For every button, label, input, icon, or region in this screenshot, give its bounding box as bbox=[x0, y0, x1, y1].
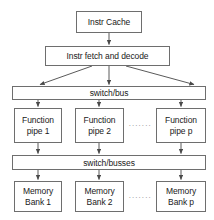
node-function-pipe-1-line2: pipe 1 bbox=[27, 126, 50, 137]
node-instr-cache: Instr Cache bbox=[76, 11, 142, 33]
node-memory-bank-1-line2: Bank 1 bbox=[25, 197, 51, 208]
node-function-pipe-p-line2: pipe p bbox=[170, 126, 193, 137]
node-function-pipe-p-line1: Function bbox=[165, 115, 197, 126]
node-instr-fetch-and-decode-label: Instr fetch and decode bbox=[67, 51, 149, 62]
ellipsis-function-pipes: ······· bbox=[126, 122, 154, 130]
node-instr-fetch-and-decode: Instr fetch and decode bbox=[45, 46, 170, 66]
node-memory-bank-1: Memory Bank 1 bbox=[14, 181, 62, 212]
node-memory-bank-1-line1: Memory bbox=[23, 186, 53, 197]
node-switch-bus: switch/bus bbox=[12, 86, 206, 100]
node-switch-busses: switch/busses bbox=[12, 155, 206, 170]
node-instr-cache-label: Instr Cache bbox=[88, 17, 130, 28]
ellipsis-memory-banks: ······· bbox=[126, 194, 154, 202]
node-memory-bank-p-line1: Memory bbox=[166, 186, 196, 197]
node-function-pipe-2: Function pipe 2 bbox=[75, 108, 124, 143]
node-function-pipe-2-line2: pipe 2 bbox=[88, 126, 111, 137]
node-switch-busses-label: switch/busses bbox=[83, 158, 135, 168]
node-function-pipe-1-line1: Function bbox=[22, 115, 54, 126]
block-diagram: Instr Cache Instr fetch and decode switc… bbox=[0, 0, 214, 220]
node-switch-bus-label: switch/bus bbox=[90, 88, 129, 98]
node-memory-bank-p: Memory Bank p bbox=[156, 181, 206, 212]
node-memory-bank-p-line2: Bank p bbox=[168, 197, 194, 208]
node-function-pipe-2-line1: Function bbox=[84, 115, 116, 126]
node-function-pipe-1: Function pipe 1 bbox=[14, 108, 62, 143]
edge-fetch-to-bus-left bbox=[40, 66, 92, 85]
node-memory-bank-2-line2: Bank 2 bbox=[87, 197, 113, 208]
node-memory-bank-2-line1: Memory bbox=[84, 186, 114, 197]
node-function-pipe-p: Function pipe p bbox=[156, 108, 206, 143]
edge-fetch-to-bus-right bbox=[126, 66, 194, 85]
node-memory-bank-2: Memory Bank 2 bbox=[75, 181, 124, 212]
